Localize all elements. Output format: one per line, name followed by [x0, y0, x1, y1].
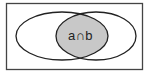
intersection-label: a∩b: [68, 28, 93, 43]
